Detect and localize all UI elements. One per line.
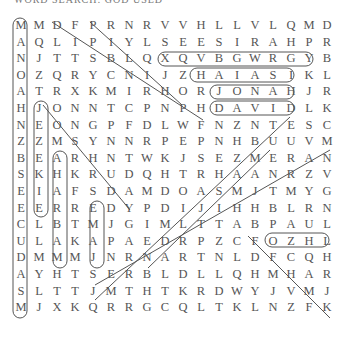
grid-cell[interactable]: K (84, 83, 102, 100)
grid-cell[interactable]: D (210, 100, 228, 117)
grid-cell[interactable]: A (228, 100, 246, 117)
grid-cell[interactable]: C (12, 216, 30, 233)
grid-cell[interactable]: M (102, 283, 120, 300)
grid-cell[interactable]: L (120, 50, 138, 67)
grid-cell[interactable]: L (246, 299, 264, 316)
grid-cell[interactable]: J (30, 50, 48, 67)
grid-cell[interactable]: O (48, 117, 66, 134)
grid-cell[interactable]: R (174, 249, 192, 266)
grid-cell[interactable]: G (138, 299, 156, 316)
grid-cell[interactable]: R (138, 17, 156, 34)
grid-cell[interactable]: T (66, 283, 84, 300)
grid-cell[interactable]: Y (300, 50, 318, 67)
grid-cell[interactable]: K (228, 299, 246, 316)
grid-cell[interactable]: E (30, 150, 48, 167)
grid-cell[interactable]: P (138, 200, 156, 217)
grid-cell[interactable]: N (246, 117, 264, 134)
grid-cell[interactable]: J (300, 83, 318, 100)
grid-cell[interactable]: P (174, 100, 192, 117)
grid-cell[interactable]: P (102, 233, 120, 250)
grid-cell[interactable]: L (282, 200, 300, 217)
grid-cell[interactable]: N (120, 133, 138, 150)
grid-cell[interactable]: A (12, 83, 30, 100)
grid-cell[interactable]: I (30, 183, 48, 200)
grid-cell[interactable]: N (66, 100, 84, 117)
grid-cell[interactable]: I (228, 67, 246, 84)
grid-cell[interactable]: K (156, 150, 174, 167)
grid-cell[interactable]: C (228, 233, 246, 250)
grid-cell[interactable]: Y (120, 34, 138, 51)
grid-cell[interactable]: T (30, 83, 48, 100)
grid-cell[interactable]: Y (300, 183, 318, 200)
grid-cell[interactable]: P (84, 34, 102, 51)
grid-cell[interactable]: Q (174, 299, 192, 316)
grid-cell[interactable]: Q (30, 34, 48, 51)
grid-cell[interactable]: P (192, 233, 210, 250)
grid-cell[interactable]: D (210, 283, 228, 300)
grid-cell[interactable]: P (84, 17, 102, 34)
grid-cell[interactable]: J (246, 183, 264, 200)
grid-cell[interactable]: A (12, 34, 30, 51)
grid-cell[interactable]: N (102, 249, 120, 266)
grid-cell[interactable]: N (264, 166, 282, 183)
grid-cell[interactable]: N (318, 200, 336, 217)
grid-cell[interactable]: D (156, 233, 174, 250)
grid-cell[interactable]: A (228, 166, 246, 183)
grid-cell[interactable]: P (300, 34, 318, 51)
grid-cell[interactable]: H (282, 83, 300, 100)
grid-cell[interactable]: L (174, 216, 192, 233)
grid-cell[interactable]: N (120, 67, 138, 84)
grid-cell[interactable]: I (264, 100, 282, 117)
grid-cell[interactable]: R (120, 266, 138, 283)
grid-cell[interactable]: T (174, 166, 192, 183)
grid-cell[interactable]: R (120, 249, 138, 266)
grid-cell[interactable]: H (138, 283, 156, 300)
grid-cell[interactable]: R (282, 166, 300, 183)
grid-cell[interactable]: Z (210, 233, 228, 250)
grid-cell[interactable]: A (12, 266, 30, 283)
grid-cell[interactable]: Z (174, 67, 192, 84)
grid-cell[interactable]: H (192, 100, 210, 117)
grid-cell[interactable]: M (282, 183, 300, 200)
grid-cell[interactable]: M (318, 133, 336, 150)
grid-cell[interactable]: D (48, 17, 66, 34)
grid-cell[interactable]: H (210, 166, 228, 183)
grid-cell[interactable]: S (84, 183, 102, 200)
grid-cell[interactable]: Q (282, 17, 300, 34)
grid-cell[interactable]: Q (174, 50, 192, 67)
grid-cell[interactable]: C (156, 299, 174, 316)
grid-cell[interactable]: Q (138, 50, 156, 67)
grid-cell[interactable]: Z (12, 133, 30, 150)
grid-cell[interactable]: M (300, 17, 318, 34)
grid-cell[interactable]: N (210, 117, 228, 134)
grid-cell[interactable]: R (282, 150, 300, 167)
grid-cell[interactable]: N (156, 100, 174, 117)
grid-cell[interactable]: B (138, 266, 156, 283)
grid-cell[interactable]: K (66, 233, 84, 250)
grid-cell[interactable]: T (102, 100, 120, 117)
grid-cell[interactable]: R (66, 67, 84, 84)
grid-cell[interactable]: M (300, 283, 318, 300)
grid-cell[interactable]: R (318, 266, 336, 283)
grid-cell[interactable]: O (174, 183, 192, 200)
grid-cell[interactable]: D (120, 166, 138, 183)
grid-cell[interactable]: L (156, 266, 174, 283)
grid-cell[interactable]: S (264, 67, 282, 84)
grid-cell[interactable]: G (318, 183, 336, 200)
grid-cell[interactable]: V (300, 133, 318, 150)
grid-cell[interactable]: N (12, 50, 30, 67)
grid-cell[interactable]: W (246, 50, 264, 67)
grid-cell[interactable]: M (48, 133, 66, 150)
grid-cell[interactable]: L (318, 233, 336, 250)
grid-cell[interactable]: W (228, 283, 246, 300)
grid-cell[interactable]: L (264, 17, 282, 34)
grid-cell[interactable]: E (210, 150, 228, 167)
grid-cell[interactable]: T (66, 266, 84, 283)
grid-cell[interactable]: R (66, 150, 84, 167)
grid-cell[interactable]: N (120, 17, 138, 34)
grid-cell[interactable]: Y (84, 67, 102, 84)
grid-cell[interactable]: H (156, 83, 174, 100)
grid-cell[interactable]: Z (300, 166, 318, 183)
grid-cell[interactable]: E (264, 150, 282, 167)
grid-cell[interactable]: N (102, 133, 120, 150)
